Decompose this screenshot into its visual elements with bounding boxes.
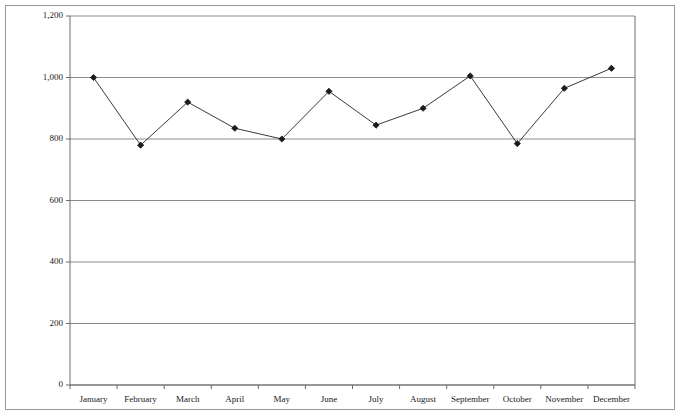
y-axis-tick-label: 1,200 [43,11,63,20]
x-axis-tick-label: March [164,395,211,404]
y-axis-tick-label: 1,000 [43,73,63,82]
data-point-marker [90,74,96,80]
plot-canvas [0,0,681,417]
y-axis-tick-label: 200 [50,319,64,328]
y-axis-tick-label: 600 [50,196,64,205]
x-axis-tick-label: April [211,395,258,404]
x-axis-tick-label: October [494,395,541,404]
data-point-marker [232,125,238,131]
y-axis-tick-label: 800 [50,134,64,143]
x-axis-tick-label: February [117,395,164,404]
gridlines [70,16,635,385]
line-chart-figure: 02004006008001,0001,200 JanuaryFebruaryM… [0,0,681,417]
data-point-marker [467,73,473,79]
y-axis-tick-label: 400 [50,257,64,266]
x-axis-ticks [70,385,635,389]
x-axis-tick-label: November [541,395,588,404]
x-axis-tick-label: January [70,395,117,404]
y-axis-ticks [66,16,70,385]
data-series-line [94,68,612,145]
x-axis-tick-label: July [353,395,400,404]
data-point-marker [608,65,614,71]
x-axis-tick-label: December [588,395,635,404]
x-axis-tick-label: August [400,395,447,404]
x-axis-tick-label: June [305,395,352,404]
data-point-marker [420,105,426,111]
x-axis-tick-label: May [258,395,305,404]
x-axis-tick-label: September [447,395,494,404]
y-axis-tick-label: 0 [59,380,64,389]
